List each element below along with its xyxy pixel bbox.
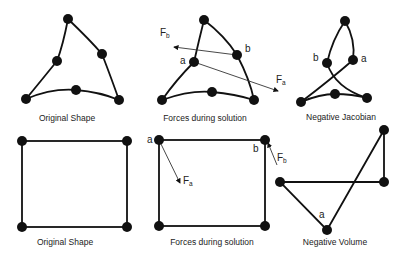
diagram-canvas bbox=[0, 0, 402, 255]
caption-negative-volume: Negative Volume bbox=[303, 237, 367, 247]
caption-tri-forces: Forces during solution bbox=[163, 113, 247, 123]
label-fa: Fa bbox=[276, 74, 286, 86]
label-volume-a: a bbox=[319, 209, 325, 220]
force-arrow-fa-quad bbox=[160, 142, 180, 183]
force-arrow-fb bbox=[174, 47, 237, 55]
node-dots bbox=[17, 14, 389, 235]
caption-quad-forces: Forces during solution bbox=[170, 237, 254, 247]
caption-quad-original: Original Shape bbox=[37, 237, 93, 247]
label-fb: Fb bbox=[160, 27, 170, 39]
quad-original-element bbox=[22, 141, 127, 227]
caption-tri-original: Original Shape bbox=[39, 113, 95, 123]
label-quad-fa: Fa bbox=[183, 175, 193, 187]
negative-volume-element bbox=[280, 130, 384, 230]
label-quad-b: b bbox=[253, 143, 259, 154]
label-jacobian-b: b bbox=[313, 52, 319, 63]
triangle-forces-element bbox=[162, 20, 254, 100]
quad-forces-element bbox=[159, 140, 265, 226]
label-jacobian-a: a bbox=[361, 53, 367, 64]
label-node-a: a bbox=[180, 55, 186, 66]
force-arrow-fb-quad bbox=[268, 143, 277, 165]
caption-negative-jacobian: Negative Jacobian bbox=[306, 112, 376, 122]
force-arrow-fa bbox=[194, 62, 278, 91]
label-node-b: b bbox=[245, 43, 251, 54]
label-quad-a: a bbox=[147, 134, 153, 145]
label-quad-fb: Fb bbox=[277, 152, 287, 164]
